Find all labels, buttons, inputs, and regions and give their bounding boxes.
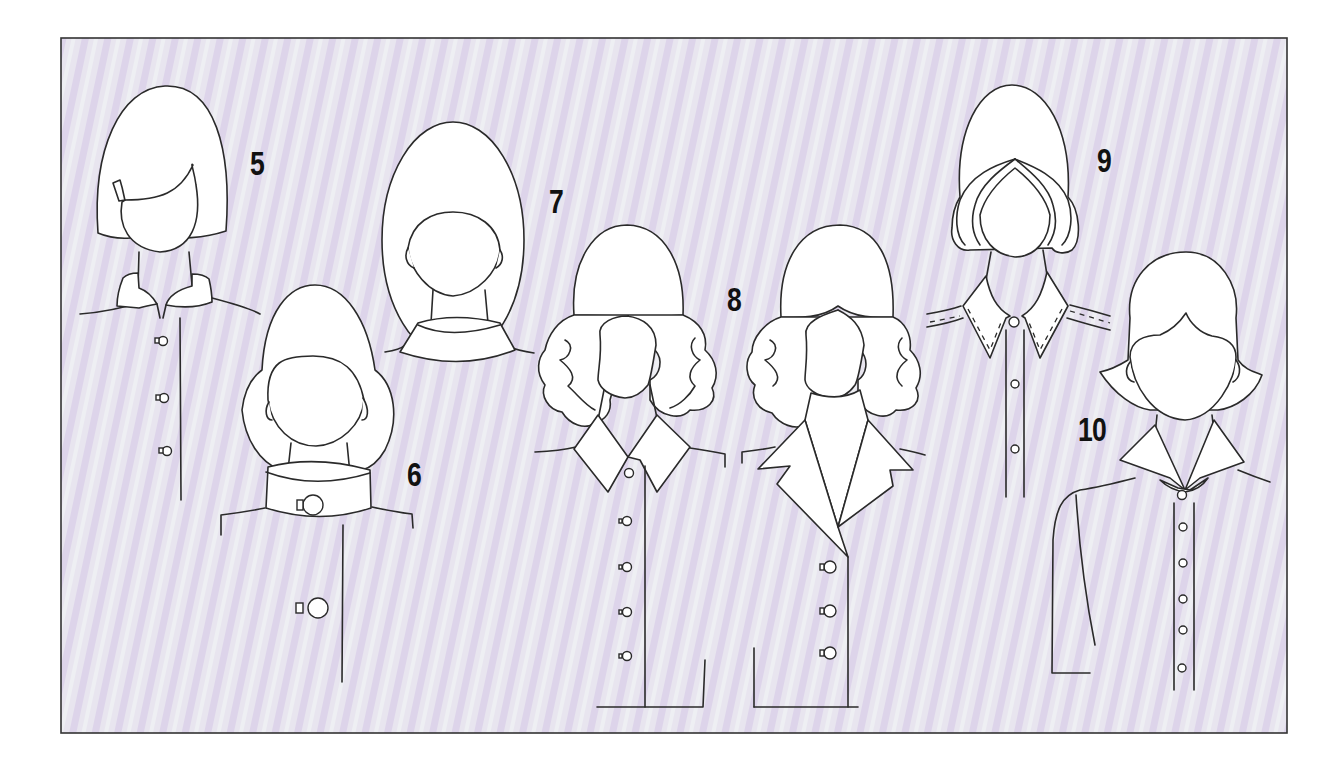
figure-label-9: 9: [1097, 143, 1111, 177]
fashion-illustration-sheet: 5 6 7 8 9 10: [0, 0, 1344, 770]
figure-label-5: 5: [250, 146, 264, 180]
face: [805, 310, 864, 398]
face: [598, 316, 656, 398]
illustration-canvas: [0, 0, 1344, 770]
figure-label-8: 8: [727, 282, 741, 316]
figure-label-6: 6: [407, 457, 421, 491]
roll-collar: [400, 318, 515, 362]
figure-label-7: 7: [549, 184, 563, 218]
figure-label-10: 10: [1078, 412, 1106, 446]
